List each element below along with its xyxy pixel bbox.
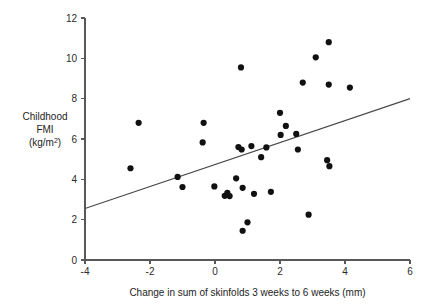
- data-point: [306, 212, 312, 218]
- fit-line: [85, 99, 410, 209]
- data-point: [233, 175, 239, 181]
- x-axis-title: Change in sum of skinfolds 3 weeks to 6 …: [129, 287, 365, 298]
- y-tick-label: 2: [71, 214, 77, 225]
- data-point: [347, 84, 353, 90]
- data-point: [258, 154, 264, 160]
- x-tick-label: -4: [81, 266, 90, 277]
- data-point: [283, 123, 289, 129]
- data-point: [240, 228, 246, 234]
- y-axis-title-line: Childhood: [22, 111, 67, 122]
- data-point: [326, 163, 332, 169]
- data-point: [295, 146, 301, 152]
- data-point: [227, 193, 233, 199]
- data-point: [326, 39, 332, 45]
- x-tick-label: 2: [277, 266, 283, 277]
- data-point: [277, 110, 283, 116]
- y-axis-title-line: (kg/m2): [29, 137, 61, 149]
- data-point: [300, 79, 306, 85]
- data-point: [136, 120, 142, 126]
- axis-ticks: [81, 18, 410, 264]
- x-tick-label: 4: [342, 266, 348, 277]
- scatter-plot: 024681012-4-20246 Change in sum of skinf…: [0, 0, 422, 306]
- data-point: [244, 219, 250, 225]
- data-point: [313, 54, 319, 60]
- data-point: [238, 64, 244, 70]
- regression-line: [85, 99, 410, 209]
- data-point: [263, 144, 269, 150]
- data-point: [201, 120, 207, 126]
- y-tick-label: 12: [66, 13, 78, 24]
- data-point: [293, 131, 299, 137]
- x-tick-label: 6: [407, 266, 413, 277]
- data-point: [268, 189, 274, 195]
- x-tick-label: 0: [212, 266, 218, 277]
- data-point: [200, 139, 206, 145]
- data-point: [239, 146, 245, 152]
- data-point: [179, 184, 185, 190]
- data-point: [248, 143, 254, 149]
- data-point: [326, 81, 332, 87]
- y-tick-label: 10: [66, 53, 78, 64]
- y-tick-label: 4: [71, 174, 77, 185]
- y-tick-label: 8: [71, 93, 77, 104]
- x-tick-label: -2: [146, 266, 155, 277]
- data-point: [240, 185, 246, 191]
- y-tick-label: 6: [71, 134, 77, 145]
- y-axis-title-line: FMI: [36, 124, 53, 135]
- data-point: [211, 183, 217, 189]
- data-point: [127, 165, 133, 171]
- y-tick-label: 0: [71, 255, 77, 266]
- chart-figure: 024681012-4-20246 Change in sum of skinf…: [0, 0, 422, 306]
- data-point: [251, 191, 257, 197]
- data-point: [278, 132, 284, 138]
- data-points: [127, 39, 353, 234]
- data-point: [324, 157, 330, 163]
- data-point: [175, 174, 181, 180]
